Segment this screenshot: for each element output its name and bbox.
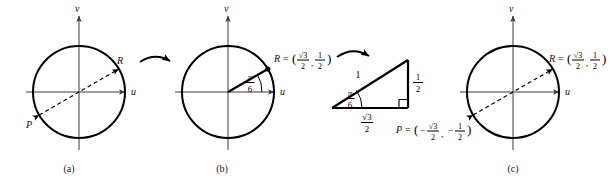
- panel-c-R-close-paren: ): [602, 51, 606, 66]
- panel-c-R-open-paren: (: [567, 51, 571, 66]
- panel-c: u v R = ( √3 2 , 1 2 ) P = ( − √3 2: [395, 3, 606, 175]
- panel-b: u v π 6 R = ( √3 2 , 1 2 ) (b): [175, 3, 331, 175]
- panel-c-R-equals: =: [558, 53, 564, 64]
- panel-b-point-R-coordinates: R = ( √3 2 , 1 2 ): [273, 51, 331, 71]
- panel-b-v-axis-label: v: [224, 3, 229, 14]
- triangle-vertical-denominator: 2: [416, 84, 421, 94]
- panel-b-R-y-numerator: 1: [318, 51, 322, 60]
- reference-triangle: π 6 1 1 2 √3 2: [332, 60, 423, 134]
- panel-b-R-open-paren: (: [292, 51, 296, 66]
- panel-b-point-R-dot: [265, 66, 270, 71]
- triangle-base-numerator: √3: [362, 112, 372, 122]
- triangle-vertical-numerator: 1: [416, 72, 421, 82]
- panel-c-P-x-denominator: 2: [431, 133, 435, 142]
- panel-c-R-y-denominator: 2: [593, 62, 597, 71]
- panel-c-R-label: R: [548, 53, 555, 64]
- triangle-angle-numerator: π: [348, 88, 353, 98]
- panel-a: u v R P (a): [25, 3, 136, 175]
- panel-a-point-P-label: P: [25, 119, 32, 130]
- panel-a-point-R-label: R: [116, 55, 123, 66]
- panel-c-P-y-minus-sign: −: [448, 125, 453, 135]
- panel-c-point-R-coordinates: R = ( √3 2 , 1 2 ): [548, 51, 606, 71]
- panel-b-u-axis-label: u: [280, 86, 285, 97]
- panel-c-P-comma: ,: [441, 129, 443, 139]
- panel-b-R-comma: ,: [311, 58, 313, 68]
- triangle-right-angle-marker: [399, 100, 408, 109]
- panel-b-angle-denominator: 6: [248, 84, 253, 94]
- panel-c-P-x-minus-sign: −: [420, 125, 425, 135]
- unit-circle-figure: u v R P (a) u v π 6 R = (: [0, 0, 616, 185]
- panel-c-R-x-denominator: 2: [576, 62, 580, 71]
- panel-c-P-equals: =: [405, 124, 411, 135]
- panel-b-R-y-denominator: 2: [318, 62, 322, 71]
- panel-b-angle-numerator: π: [248, 72, 253, 82]
- panel-c-P-x-numerator: √3: [429, 122, 437, 131]
- panel-a-caption: (a): [63, 163, 74, 175]
- panel-c-P-open-paren: (: [414, 122, 418, 137]
- panel-c-P-y-denominator: 2: [458, 133, 462, 142]
- triangle-angle-denominator: 6: [348, 100, 353, 110]
- triangle-hypotenuse-side: [332, 60, 408, 108]
- panel-a-v-axis-label: v: [75, 3, 80, 14]
- transition-arrow-a-to-b: [140, 57, 170, 62]
- triangle-vertical-label: 1 2: [413, 72, 423, 94]
- panel-c-R-y-numerator: 1: [593, 51, 597, 60]
- panel-b-R-close-paren: ): [327, 51, 331, 66]
- panel-c-caption: (c): [507, 163, 518, 175]
- panel-c-u-axis-label: u: [565, 86, 570, 97]
- panel-c-R-comma: ,: [586, 58, 588, 68]
- panel-c-P-close-paren: ): [467, 122, 471, 137]
- triangle-hypotenuse-label: 1: [356, 69, 361, 80]
- panel-b-angle-arc: [257, 75, 262, 92]
- panel-c-P-y-numerator: 1: [458, 122, 462, 131]
- triangle-base-denominator: 2: [365, 124, 370, 134]
- panel-b-R-x-numerator: √3: [299, 51, 307, 60]
- panel-c-R-x-numerator: √3: [574, 51, 582, 60]
- panel-c-P-label: P: [395, 124, 402, 135]
- triangle-base-label: √3 2: [361, 112, 373, 134]
- triangle-angle-label: π 6: [346, 88, 355, 110]
- panel-b-R-equals: =: [283, 53, 289, 64]
- transition-arrow-b-to-triangle: [337, 51, 369, 57]
- panel-c-v-axis-label: v: [509, 3, 514, 14]
- panel-b-caption: (b): [216, 163, 228, 175]
- panel-b-angle-label: π 6: [246, 72, 255, 94]
- panel-c-point-P-coordinates: P = ( − √3 2 , − 1 2 ): [395, 122, 471, 142]
- panel-b-R-x-denominator: 2: [301, 62, 305, 71]
- panel-b-R-label: R: [273, 53, 280, 64]
- panel-a-u-axis-label: u: [131, 86, 136, 97]
